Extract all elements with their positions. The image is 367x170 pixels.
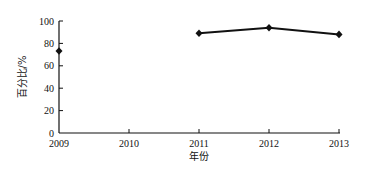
y-axis-title: 百分比/% <box>17 56 28 99</box>
data-point-2013 <box>336 31 343 39</box>
x-tick-label: 2013 <box>329 138 349 149</box>
y-tick-label: 100 <box>39 16 54 27</box>
x-axis-title: 年份 <box>189 150 209 162</box>
y-tick-labels: 100 80 60 40 20 0 <box>39 16 54 139</box>
line-chart: 100 80 60 40 20 0 2009 2010 2011 2012 20… <box>0 0 367 170</box>
x-tick-label: 2009 <box>49 138 69 149</box>
y-tick-label: 40 <box>44 83 54 94</box>
x-tick-labels: 2009 2010 2011 2012 2013 <box>49 138 349 149</box>
y-tick-label: 20 <box>44 105 54 116</box>
data-point-2012 <box>266 24 273 32</box>
x-tick-label: 2012 <box>259 138 279 149</box>
data-markers <box>56 24 343 55</box>
data-point-2009 <box>56 47 63 55</box>
y-tick-label: 60 <box>44 60 54 71</box>
x-tick-label: 2011 <box>189 138 209 149</box>
y-tick-label: 0 <box>49 128 54 139</box>
data-point-2011 <box>196 30 203 38</box>
y-tick-label: 80 <box>44 38 54 49</box>
x-tick-label: 2010 <box>119 138 139 149</box>
